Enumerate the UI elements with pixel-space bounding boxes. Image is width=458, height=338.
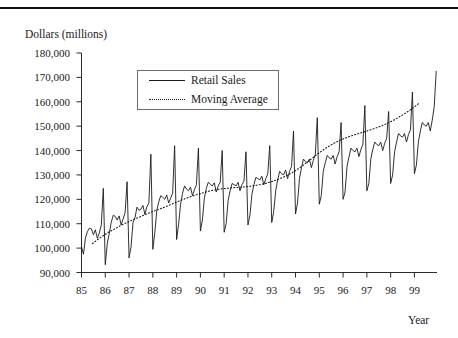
legend-item-retail-sales: Retail Sales	[138, 71, 278, 90]
legend-item-moving-average: Moving Average	[138, 90, 278, 109]
x-tick-label: 86	[95, 284, 115, 296]
x-tick-label: 96	[333, 284, 353, 296]
x-axis-ticks	[82, 273, 415, 278]
legend-swatch-solid-line	[149, 80, 185, 83]
legend-label-moving-average: Moving Average	[191, 92, 268, 106]
x-tick-label: 94	[286, 284, 306, 296]
x-tick-label: 89	[167, 284, 187, 296]
y-tick-label: 150,000	[12, 120, 70, 132]
legend-swatch-dotted-line	[149, 99, 185, 102]
x-tick-label: 88	[143, 284, 163, 296]
y-tick-label: 90,000	[12, 267, 70, 279]
y-tick-label: 130,000	[12, 169, 70, 181]
x-tick-label: 95	[309, 284, 329, 296]
x-axis-title: Year	[408, 313, 429, 327]
y-tick-label: 100,000	[12, 242, 70, 254]
x-tick-label: 92	[238, 284, 258, 296]
chart-legend: Retail Sales Moving Average	[137, 70, 279, 110]
x-tick-label: 97	[357, 284, 377, 296]
y-tick-label: 170,000	[12, 71, 70, 83]
y-tick-label: 110,000	[12, 218, 70, 230]
y-axis-ticks	[77, 53, 82, 273]
y-tick-label: 120,000	[12, 193, 70, 205]
y-tick-label: 180,000	[12, 47, 70, 59]
retail-sales-chart-figure: Dollars (millions) 90,000100,000110,0001…	[0, 0, 458, 338]
x-tick-label: 91	[214, 284, 234, 296]
x-tick-label: 90	[190, 284, 210, 296]
y-tick-label: 140,000	[12, 145, 70, 157]
x-tick-label: 87	[119, 284, 139, 296]
x-tick-label: 98	[381, 284, 401, 296]
legend-label-retail-sales: Retail Sales	[191, 73, 246, 87]
series-line-moving-average	[92, 103, 419, 244]
x-tick-label: 85	[72, 284, 92, 296]
x-tick-label: 93	[262, 284, 282, 296]
x-tick-label: 99	[404, 284, 424, 296]
y-tick-label: 160,000	[12, 96, 70, 108]
